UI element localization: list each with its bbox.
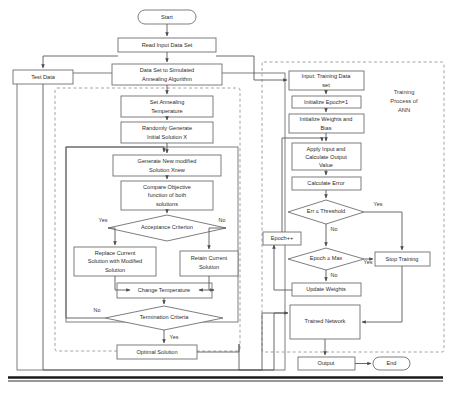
node-randomly-generate-label-line2: Initial Solution X	[147, 134, 187, 140]
node-replace-current-label-line2: Solution with Modified	[88, 258, 142, 264]
node-epoch-increment-label: Epoch++	[271, 235, 293, 241]
ann-group-label-line3: ANN	[398, 107, 410, 113]
node-optimal-solution-label: Optimal Solution	[136, 349, 177, 355]
edge-label-termination-yes: Yes	[170, 334, 179, 340]
node-dataset-to-sa-label-line2: Annealing Algorithm	[142, 76, 192, 82]
flowchart-canvas: Training Process of ANN Start Read Input…	[0, 0, 451, 395]
node-replace-current-label-line3: Solution	[105, 267, 125, 273]
node-termination-criteria-label: Termination Criteria	[140, 314, 189, 320]
node-apply-input-label-line3: Value	[319, 162, 333, 168]
node-generate-new-label-line1: Generate New modified	[138, 158, 197, 164]
edge-label-err-no: No	[331, 226, 338, 232]
node-trained-network-label: Trained Network	[305, 318, 346, 324]
node-start-label: Start	[161, 14, 173, 20]
node-retain-current-label-line2: Solution	[199, 264, 219, 270]
node-stop-training-label: Stop Training	[386, 256, 419, 262]
node-compare-objective-label-line3: solutions	[156, 201, 178, 207]
edge-loopback-merge-to-generate-new	[66, 147, 164, 152]
edge-label-epoch-max-yes: Yes	[364, 259, 373, 265]
node-generate-new-label-line2: Solution Xnew	[149, 167, 186, 173]
node-initialize-weights-label-line1: Initialize Weights and	[300, 116, 353, 122]
node-end-label: End	[387, 360, 397, 366]
node-read-input-data-set-label: Read Input Data Set	[142, 42, 193, 48]
edge-update-weights-to-epoch-increment	[274, 245, 292, 290]
ann-group-label-line2: Process of	[390, 98, 418, 104]
node-compare-objective-label-line2: function of both	[148, 192, 186, 198]
node-apply-input-label-line1: Apply Input and	[307, 146, 346, 152]
edge-label-epoch-max-no: No	[331, 272, 338, 278]
edge-label-acceptance-yes: Yes	[99, 217, 108, 223]
node-test-data-label: Test Data	[31, 74, 56, 80]
node-replace-current-label-line1: Replace Current	[95, 250, 136, 256]
edge-err-yes-to-stop-training	[364, 212, 402, 250]
edge-label-termination-no: No	[94, 307, 101, 313]
edge-label-acceptance-no: No	[219, 217, 226, 223]
node-initialize-epoch-label: Initialize Epoch=1	[304, 99, 348, 105]
node-change-temperature-label: Change Temperature	[138, 287, 190, 293]
edge-termination-no-loopback	[66, 147, 105, 318]
node-retain-current-label-line1: Retain Current	[191, 255, 228, 261]
node-apply-input-label-line2: Calculate Output	[305, 154, 347, 160]
node-calculate-error-label: Calculate Error	[307, 180, 344, 186]
node-compare-objective-label-line1: Compare Objective	[143, 184, 191, 190]
edge-optimal-to-trained-network	[197, 313, 288, 370]
node-set-annealing-temperature-label-line2: Temperature	[151, 108, 182, 114]
node-update-weights-label: Update Weights	[306, 286, 346, 292]
node-input-training-label-line1: Input: Training Data	[302, 73, 352, 79]
node-randomly-generate-label-line1: Randomly Generate	[142, 125, 192, 131]
node-dataset-to-sa-label-line1: Data Set to Simulated	[140, 67, 194, 73]
node-output-label: Output	[318, 360, 335, 366]
edge-acceptance-yes-to-replace	[108, 228, 115, 245]
node-input-training-label-line2: set	[322, 82, 330, 88]
node-epoch-max-label: Epoch ≥ Max	[310, 255, 343, 261]
ann-group-label-line1: Training	[394, 89, 415, 95]
node-err-threshold-label: Err ≤ Threshold	[307, 208, 345, 214]
node-initialize-weights-label-line2: Bias	[321, 125, 332, 131]
edge-read-input-to-test-data	[43, 56, 118, 68]
node-acceptance-criterion-label: Acceptance Criterion	[141, 224, 193, 230]
flowchart-diagram: Training Process of ANN Start Read Input…	[0, 0, 451, 395]
edge-stop-training-to-trained-network	[362, 266, 402, 322]
edge-read-input-to-input-training	[216, 56, 287, 80]
node-set-annealing-temperature-label-line1: Set Annealing	[150, 99, 185, 105]
edge-label-err-yes: Yes	[374, 201, 383, 207]
